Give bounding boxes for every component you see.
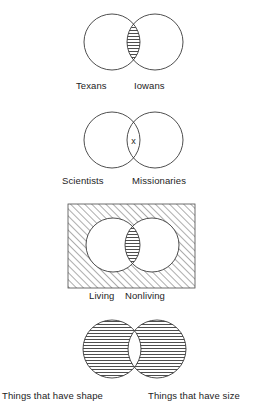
venn-diagram-3 bbox=[68, 204, 195, 288]
venn-1-left-label: Texans bbox=[76, 80, 107, 91]
venn-diagram-1 bbox=[84, 14, 183, 70]
venn-4-right-label: Things that have size bbox=[148, 390, 240, 401]
venn-4-left-label: Things that have shape bbox=[2, 390, 103, 401]
venn-2-intersection-x-mark: x bbox=[131, 136, 136, 146]
venn-diagram-2: x bbox=[84, 112, 183, 168]
venn-3-left-label: Living bbox=[89, 290, 114, 301]
venn-2-right-label: Missionaries bbox=[132, 175, 186, 186]
venn-diagram-4 bbox=[80, 317, 225, 381]
venn-1-right-label: Iowans bbox=[134, 80, 165, 91]
venn-2-left-label: Scientists bbox=[62, 175, 104, 186]
venn-figure: x Texans Iowans Scientists Missionaries … bbox=[0, 0, 265, 419]
venn-3-right-label: Nonliving bbox=[125, 290, 165, 301]
venn-diagram-canvas: x bbox=[0, 0, 265, 419]
